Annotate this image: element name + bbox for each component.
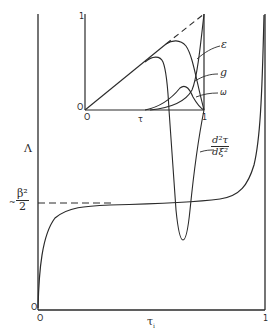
asymptote-prefix: ~ (9, 199, 16, 207)
omega-curve (145, 86, 204, 110)
lambda-curve (38, 15, 264, 308)
main-y-origin-label: O (31, 304, 37, 312)
epsilon-curve (166, 41, 204, 110)
inset-y-top-label: 1 (79, 13, 84, 21)
inset-diagonal-dashed (166, 14, 204, 44)
asymptote-denominator: 2 (16, 201, 29, 213)
main-x-origin-label: O (37, 315, 43, 323)
d2tau-numerator: d²τ (211, 135, 229, 147)
omega-leader (196, 93, 218, 97)
main-x-axis-subscript: i (153, 322, 155, 329)
asymptote-numerator: β² (16, 188, 29, 201)
d2tau-denominator: dξ² (211, 147, 229, 158)
main-x-axis-label: τi (147, 316, 155, 329)
asymptote-label: β² 2 (16, 188, 29, 212)
d2tau-curve (169, 110, 204, 240)
epsilon-label: ε (221, 39, 227, 50)
inset-y-origin-label: O (77, 104, 83, 112)
diagram-canvas (0, 0, 276, 330)
g-label: g (220, 67, 227, 78)
main-x-end-label: 1 (263, 315, 268, 323)
rising-curve (150, 14, 204, 110)
d2tau-label: d²τ dξ² (211, 135, 229, 157)
inset-diagonal-solid (85, 44, 166, 110)
inset-x-origin-label: O (84, 114, 90, 122)
inset-x-end-label: 1 (202, 114, 207, 122)
inset-x-axis-label: τ (138, 116, 143, 124)
main-y-axis-label: Λ (24, 143, 32, 154)
omega-label: ω (220, 89, 227, 97)
g-leader (195, 74, 218, 81)
